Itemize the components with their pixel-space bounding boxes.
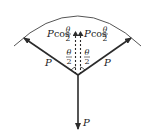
svg-text:2: 2 [66,34,71,43]
force-diagram: P cos θ 2 P cos θ 2 θ 2 θ 2 P P P [0,0,145,136]
right-angle-label: θ 2 [84,48,90,66]
svg-text:θ: θ [85,48,90,57]
svg-text:θ: θ [103,25,108,34]
right-component-label: P cos θ 2 [83,25,108,43]
left-force-label: P [44,57,52,68]
svg-text:2: 2 [84,57,89,66]
svg-text:P: P [83,28,91,39]
left-component-label: P cos θ 2 [46,25,71,43]
left-angle-label: θ 2 [66,48,72,66]
down-force-label: P [82,117,90,128]
svg-text:P: P [46,28,54,39]
contour-arc [14,16,141,46]
svg-text:2: 2 [66,57,71,66]
svg-text:θ: θ [66,25,71,34]
right-force-label: P [103,57,111,68]
svg-text:θ: θ [67,48,72,57]
svg-text:2: 2 [103,34,108,43]
